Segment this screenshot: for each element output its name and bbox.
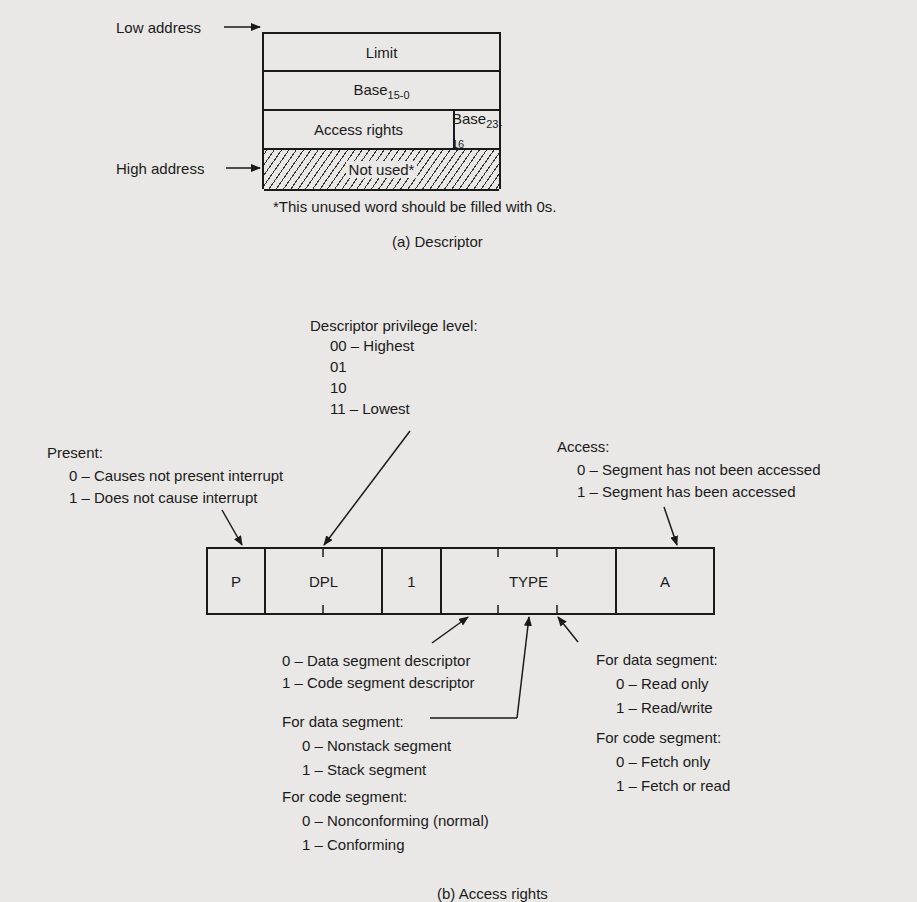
connector-arrows bbox=[0, 0, 917, 902]
